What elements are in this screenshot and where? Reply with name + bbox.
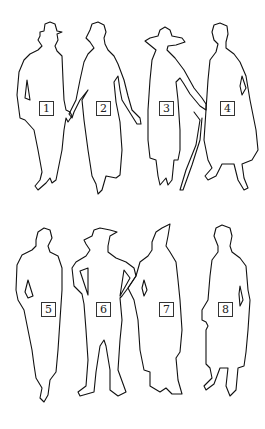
figure-label-8: 8 — [218, 302, 233, 317]
silhouette-3 — [145, 27, 206, 190]
figure-label-2: 2 — [96, 101, 111, 116]
figure-label-6: 6 — [96, 302, 111, 317]
figure-label-3: 3 — [159, 101, 174, 116]
silhouettes-figure — [0, 0, 265, 429]
figure-label-1: 1 — [39, 101, 54, 116]
figure-label-7: 7 — [159, 302, 174, 317]
figure-label-5: 5 — [41, 302, 56, 317]
figure-label-4: 4 — [220, 101, 235, 116]
